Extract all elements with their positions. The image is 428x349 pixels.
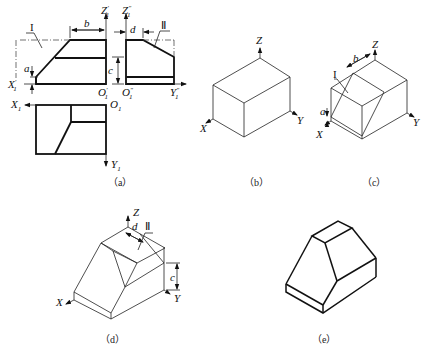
label-top-y: Y1 (111, 158, 121, 173)
side-view (112, 14, 186, 84)
dim-b-label: b (84, 17, 90, 29)
label-side-y: Y″1 (170, 86, 179, 101)
label-d-dim-d: d (132, 220, 138, 232)
caption-b: （b） (244, 177, 269, 188)
dim-a-label: a (24, 62, 30, 74)
label-front-o: O′1 (98, 86, 108, 101)
caption-a: （a） (108, 177, 132, 188)
label-c-dim-b: b (353, 52, 359, 64)
top-view (25, 105, 106, 166)
plane-1-label: I (30, 21, 34, 33)
label-d-y: Y (174, 292, 182, 304)
caption-c: （c） (362, 177, 386, 188)
label-front-z: Z′1 (101, 4, 109, 19)
label-front-x: X′1 (7, 78, 17, 93)
label-side-z: Z″1 (122, 4, 131, 19)
figure-c-cut-plane-1: Z X Y b a I （c） (315, 38, 421, 188)
label-b-z: Z (256, 34, 263, 46)
label-side-o: O″1 (122, 86, 133, 101)
label-c-y: Y (413, 116, 421, 128)
label-b-y: Y (297, 114, 305, 126)
label-c-plane-1: I (333, 68, 337, 80)
label-c-x: X (315, 128, 324, 140)
label-d-plane-2: Ⅱ (145, 220, 150, 232)
figure-a-three-view: Z′1 X′1 O′1 b a I Z″1 O″1 Y″1 (7, 4, 186, 188)
figure-b-bounding-box: Z X Y （b） (199, 34, 305, 188)
dim-d-label: d (130, 23, 136, 35)
label-b-x: X (199, 122, 208, 134)
plane-2-label: Ⅱ (161, 19, 166, 31)
caption-d: （d） (100, 334, 125, 345)
isometric-drawing-canvas: Z′1 X′1 O′1 b a I Z″1 O″1 Y″1 (0, 0, 428, 349)
label-d-x: X (55, 296, 64, 308)
label-top-x: X1 (10, 98, 21, 113)
dim-c-label: c (108, 64, 113, 76)
label-d-dim-c: c (170, 271, 175, 283)
label-d-z: Z (133, 206, 140, 218)
label-top-o: O1 (110, 98, 121, 113)
label-c-z: Z (372, 38, 379, 50)
figure-e-final-solid: （e） (286, 221, 376, 345)
label-c-dim-a: a (320, 105, 326, 117)
figure-d-cut-plane-2: Z X Y d c Ⅱ （d） (55, 206, 182, 345)
caption-e: （e） (312, 334, 336, 345)
